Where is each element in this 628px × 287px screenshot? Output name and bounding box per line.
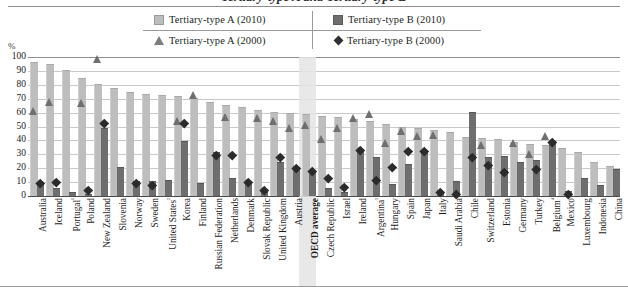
legend-divider-horizontal — [143, 30, 481, 31]
bar — [517, 162, 524, 196]
x-tick-label: Belgium⁴ — [551, 198, 562, 232]
triangle-marker — [221, 113, 229, 121]
bar — [30, 62, 38, 196]
legend-label: Tertiary-type A (2010) — [169, 14, 266, 25]
gridline — [28, 71, 620, 72]
bar — [597, 185, 604, 196]
bar — [181, 141, 188, 196]
bar — [421, 153, 428, 196]
x-tick-label: New Zealand — [103, 198, 112, 248]
bar — [325, 188, 332, 196]
square-icon — [333, 15, 343, 25]
triangle-marker — [525, 150, 533, 158]
x-tick-label: Italy — [439, 198, 448, 215]
x-tick-label: Saudi Arabia — [455, 198, 464, 246]
bar — [62, 70, 70, 196]
x-tick-label: United States² — [167, 198, 178, 250]
legend-item-tertiary-a-2010: Tertiary-type A (2010) — [143, 9, 312, 30]
y-tick-label: 40 — [0, 135, 26, 145]
triangle-marker — [509, 139, 517, 147]
x-tick-label: Spain — [407, 198, 416, 219]
bar — [357, 151, 364, 196]
bar — [341, 192, 348, 196]
bar — [254, 110, 262, 196]
triangle-marker — [477, 141, 485, 149]
x-tick-label: Sweden — [151, 198, 160, 227]
x-tick-label: Finland — [199, 198, 208, 226]
triangle-marker — [29, 107, 37, 115]
x-tick-label: Slovak Republic — [263, 198, 272, 260]
triangle-marker — [381, 139, 389, 147]
x-tick-label: Switzerland — [487, 198, 496, 242]
title-divider — [8, 6, 620, 7]
y-tick-label: 0 — [0, 191, 26, 201]
chart-legend: Tertiary-type A (2010) Tertiary-type B (… — [143, 9, 481, 51]
x-tick-label: Estonia — [503, 198, 512, 226]
triangle-marker — [253, 114, 261, 122]
x-tick-label: Denmark — [247, 198, 256, 233]
bar — [46, 64, 54, 196]
bar — [78, 78, 86, 196]
triangle-marker — [285, 124, 293, 132]
triangle-marker — [93, 55, 101, 63]
y-tick-label: 90 — [0, 66, 26, 76]
x-tick-label: Turkey — [535, 198, 544, 225]
y-tick-label: 50 — [0, 122, 26, 132]
bar — [581, 178, 588, 196]
bar — [190, 98, 198, 196]
x-axis-line — [28, 196, 620, 197]
y-tick-label: 60 — [0, 108, 26, 118]
bar — [613, 169, 620, 196]
x-tick-label: Ireland — [359, 198, 368, 224]
legend-item-tertiary-a-2000: Tertiary-type A (2000) — [143, 30, 312, 51]
triangle-marker — [45, 98, 53, 106]
legend-label: Tertiary-type A (2000) — [169, 35, 266, 46]
bar — [549, 141, 556, 196]
gridline — [28, 57, 620, 58]
page-title: Tertiary-type A and Tertiary-type B — [0, 0, 628, 5]
x-tick-label: Korea — [183, 198, 192, 221]
x-tick-label: Mexico — [567, 198, 576, 226]
bar — [197, 183, 204, 197]
legend-item-tertiary-b-2000: Tertiary-type B (2000) — [312, 30, 481, 51]
triangle-marker — [317, 135, 325, 143]
y-axis-ticks: 0102030405060708090100 — [0, 57, 26, 196]
legend-label: Tertiary-type B (2000) — [347, 35, 444, 46]
y-tick-label: 80 — [0, 80, 26, 90]
x-tick-label: Germany — [519, 198, 528, 233]
triangle-marker — [413, 132, 421, 140]
bar — [558, 148, 566, 196]
x-tick-label: Czech Republic — [327, 198, 336, 257]
triangle-marker — [397, 127, 405, 135]
y-axis-unit: % — [8, 41, 16, 51]
x-tick-label: Japan — [423, 198, 432, 219]
triangle-marker — [189, 91, 197, 99]
y-tick-label: 10 — [0, 177, 26, 187]
triangle-marker — [541, 132, 549, 140]
bar — [165, 180, 172, 196]
bar — [318, 116, 326, 196]
bar — [53, 188, 60, 196]
bar — [101, 128, 108, 196]
legend-label: Tertiary-type B (2010) — [348, 14, 445, 25]
square-icon — [154, 15, 164, 25]
x-tick-label: Iceland — [55, 198, 64, 225]
triangle-icon — [154, 36, 164, 45]
y-tick-label: 20 — [0, 163, 26, 173]
x-tick-label: OECD average — [311, 198, 320, 258]
x-tick-label: Russian Federation — [215, 198, 224, 270]
x-tick-label: Israel — [343, 198, 352, 219]
bar — [277, 162, 284, 196]
triangle-marker — [173, 117, 181, 125]
diamond-icon — [334, 36, 344, 46]
x-tick-label: Slovenia — [119, 198, 128, 231]
triangle-marker — [77, 99, 85, 107]
x-tick-label: Poland — [87, 198, 96, 224]
bar — [405, 164, 412, 196]
bar — [69, 192, 76, 196]
x-tick-label: Hungary — [391, 198, 400, 231]
x-axis-labels: AustraliaIcelandPortugal¹PolandNew Zeala… — [28, 198, 620, 287]
x-tick-label: Norway — [135, 198, 144, 228]
x-tick-label: Netherlands — [231, 198, 240, 243]
y-tick-label: 30 — [0, 149, 26, 159]
